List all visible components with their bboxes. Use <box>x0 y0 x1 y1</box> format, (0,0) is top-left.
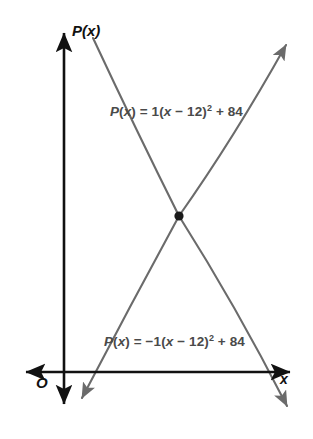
lower-eq-inner-term: − 12) <box>173 334 209 349</box>
lower-eq-function-name: P <box>104 334 113 349</box>
vertex-point-marker <box>174 211 183 220</box>
upper-eq-constant-term: + 84 <box>212 104 243 119</box>
lower-parabola-equation-label: P(x) = −1(x − 12)2 + 84 <box>104 334 245 349</box>
upper-parabola-curve <box>93 38 286 216</box>
lower-parabola-curve <box>82 216 287 406</box>
parabola-figure: P(x) = 1(x − 12)2 + 84 P(x) = −1(x − 12)… <box>0 0 313 439</box>
x-axis-label: x <box>280 371 288 387</box>
upper-eq-leading-coefficient: 1( <box>152 104 164 119</box>
upper-eq-function-name: P <box>110 104 119 119</box>
upper-parabola-equation-label: P(x) = 1(x − 12)2 + 84 <box>110 104 243 119</box>
origin-label: O <box>36 374 48 391</box>
lower-eq-equals: ) = <box>125 334 145 349</box>
y-axis-label: P(x) <box>72 22 100 39</box>
lower-eq-leading-coefficient: −1( <box>146 334 166 349</box>
upper-eq-equals: ) = <box>131 104 151 119</box>
upper-eq-inner-term: − 12) <box>171 104 207 119</box>
lower-eq-constant-term: + 84 <box>214 334 245 349</box>
